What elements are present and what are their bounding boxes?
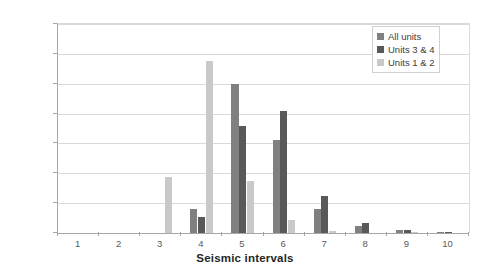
gridline <box>58 173 469 174</box>
chart-legend: All unitsUnits 3 & 4Units 1 & 2 <box>372 26 440 73</box>
bar <box>190 209 197 233</box>
y-tick-mark <box>53 23 57 24</box>
x-tick-mark <box>57 232 58 236</box>
bar <box>362 223 369 233</box>
bar <box>288 220 295 233</box>
y-tick-mark <box>53 172 57 173</box>
x-tick-mark <box>263 232 264 236</box>
bar <box>321 196 328 233</box>
x-tick-label: 7 <box>321 238 326 249</box>
gridline <box>58 203 469 204</box>
bar <box>437 232 444 233</box>
legend-swatch-icon <box>377 59 384 66</box>
bar <box>206 61 213 233</box>
bar <box>273 140 280 233</box>
legend-swatch-icon <box>377 46 384 53</box>
y-tick-mark <box>53 142 57 143</box>
x-tick-mark <box>221 232 222 236</box>
x-axis-title: Seismic intervals <box>0 252 490 264</box>
x-tick-label: 10 <box>442 238 453 249</box>
x-tick-label: 1 <box>75 238 80 249</box>
x-tick-label: 6 <box>280 238 285 249</box>
bar <box>411 232 418 233</box>
legend-item[interactable]: All units <box>377 30 434 43</box>
x-tick-mark <box>345 232 346 236</box>
x-tick-label: 3 <box>157 238 162 249</box>
legend-label: Units 3 & 4 <box>388 44 434 55</box>
gridline <box>58 84 469 85</box>
y-tick-mark <box>53 83 57 84</box>
x-tick-mark <box>304 232 305 236</box>
legend-label: Units 1 & 2 <box>388 57 434 68</box>
x-tick-mark <box>468 232 469 236</box>
bar <box>165 177 172 233</box>
x-tick-label: 8 <box>363 238 368 249</box>
x-tick-label: 4 <box>198 238 203 249</box>
x-tick-label: 5 <box>239 238 244 249</box>
x-tick-label: 2 <box>116 238 121 249</box>
bar <box>239 126 246 233</box>
legend-swatch-icon <box>377 33 384 40</box>
bar <box>247 181 254 233</box>
bar-chart: 0.0%10.0%20.0%30.0%40.0%50.0%60.0%70.0% … <box>0 0 490 278</box>
y-tick-mark <box>53 53 57 54</box>
bar <box>445 232 452 233</box>
bar <box>404 230 411 233</box>
y-tick-mark <box>53 113 57 114</box>
bar <box>314 209 321 233</box>
bar <box>396 230 403 233</box>
legend-label: All units <box>388 31 421 42</box>
bar <box>329 231 336 233</box>
legend-item[interactable]: Units 3 & 4 <box>377 43 434 56</box>
x-tick-mark <box>98 232 99 236</box>
bar <box>231 84 238 233</box>
legend-item[interactable]: Units 1 & 2 <box>377 56 434 69</box>
bar <box>355 226 362 233</box>
gridline <box>58 114 469 115</box>
y-tick-mark <box>53 202 57 203</box>
bar <box>280 111 287 233</box>
bar <box>198 217 205 233</box>
x-tick-label: 9 <box>404 238 409 249</box>
x-tick-mark <box>139 232 140 236</box>
gridline <box>58 143 469 144</box>
gridline <box>58 24 469 25</box>
x-tick-mark <box>180 232 181 236</box>
x-tick-mark <box>427 232 428 236</box>
x-tick-mark <box>386 232 387 236</box>
